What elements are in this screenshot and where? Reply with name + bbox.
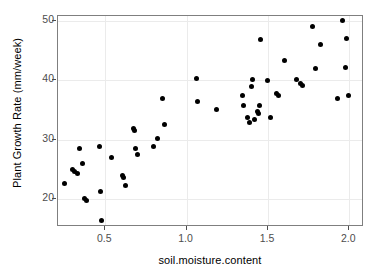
data-point [240,93,245,98]
x-tick-mark [186,226,187,230]
y-tick-label: 50 [14,13,54,25]
data-point [310,24,315,29]
data-point [135,152,140,157]
data-point [256,111,261,116]
plot-panel [57,15,363,226]
scatter-plot-figure: Plant Growth Rate (mm/week) soil.moistur… [0,0,381,276]
data-point [155,136,160,141]
x-tick-label: 1.5 [247,232,287,244]
x-tick-label: 1.0 [166,232,206,244]
data-point [77,146,82,151]
data-point [84,198,89,203]
data-point [80,161,85,166]
data-point [250,77,255,82]
data-point [276,93,281,98]
data-point [343,65,348,70]
x-tick-mark [267,226,268,230]
gridline-horizontal [58,21,362,22]
x-axis-title: soil.moisture.content [57,254,363,266]
data-point [123,183,128,188]
gridline-horizontal [58,199,362,200]
gridline-vertical [105,16,106,225]
data-point [160,96,165,101]
data-point [265,78,270,83]
data-point [300,83,305,88]
data-point [313,66,318,71]
data-point [282,58,287,63]
y-tick-label: 30 [14,132,54,144]
data-point [121,175,126,180]
data-point [249,84,254,89]
data-point [62,181,67,186]
data-point [195,99,200,104]
data-point [268,115,273,120]
gridline-horizontal [58,80,362,81]
data-point [318,42,323,47]
x-tick-mark [348,226,349,230]
x-tick-label: 0.5 [84,232,124,244]
data-point [162,122,167,127]
data-point [75,171,80,176]
y-tick-label: 40 [14,72,54,84]
x-tick-mark [104,226,105,230]
gridline-horizontal [58,140,362,141]
data-point [252,117,257,122]
gridline-vertical [187,16,188,225]
data-point [340,18,345,23]
gridline-vertical [349,16,350,225]
data-point [99,218,104,223]
data-point [258,37,263,42]
data-point [335,96,340,101]
data-point [151,144,156,149]
data-point [109,155,114,160]
data-point [241,103,246,108]
x-tick-label: 2.0 [328,232,368,244]
data-point [247,120,252,125]
data-point [98,189,103,194]
data-point [133,146,138,151]
data-point [97,144,102,149]
data-point [257,103,262,108]
data-point [132,128,137,133]
data-point [194,76,199,81]
data-point [214,107,219,112]
y-tick-label: 20 [14,191,54,203]
gridline-vertical [268,16,269,225]
